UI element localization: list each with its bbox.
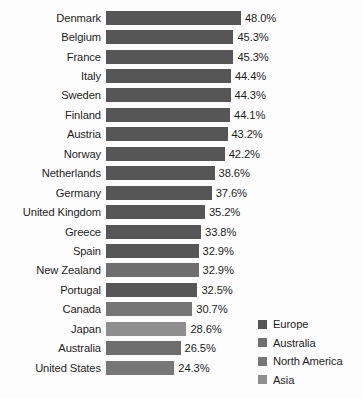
bar [106, 50, 233, 64]
bar-track: 38.6% [106, 164, 363, 183]
bar [106, 166, 215, 180]
category-label: Finland [0, 109, 106, 121]
bar-value-label: 48.0% [245, 12, 276, 24]
bar-track: 42.2% [106, 144, 363, 163]
bar-track: 30.7% [106, 300, 363, 319]
category-label: Portugal [0, 284, 106, 296]
legend-label: Asia [273, 374, 294, 386]
bar-row: Germany37.6% [0, 183, 363, 202]
bar-value-label: 33.8% [205, 226, 236, 238]
bar [106, 69, 231, 83]
bar [106, 341, 181, 355]
bar-row: Norway42.2% [0, 144, 363, 163]
category-label: Italy [0, 70, 106, 82]
bar-row: France45.3% [0, 47, 363, 66]
category-label: Japan [0, 323, 106, 335]
category-label: New Zealand [0, 264, 106, 276]
bar-track: 48.0% [106, 8, 363, 27]
bar [106, 263, 199, 277]
bar-value-label: 30.7% [196, 303, 227, 315]
bar [106, 244, 199, 258]
bar [106, 205, 205, 219]
bar-track: 45.3% [106, 47, 363, 66]
bar-track: 32.9% [106, 261, 363, 280]
bar-value-label: 24.3% [178, 362, 209, 374]
bar-row: Italy44.4% [0, 66, 363, 85]
bar [106, 127, 228, 141]
bar-value-label: 38.6% [219, 167, 250, 179]
category-label: United States [0, 362, 106, 374]
category-label: Australia [0, 342, 106, 354]
bar [106, 11, 241, 25]
bar-row: Portugal32.5% [0, 280, 363, 299]
bar-value-label: 44.3% [235, 89, 266, 101]
bar-value-label: 32.9% [203, 245, 234, 257]
bar [106, 322, 186, 336]
bar-value-label: 45.3% [237, 31, 268, 43]
bar-track: 43.2% [106, 125, 363, 144]
bar [106, 283, 197, 297]
bar-row: Austria43.2% [0, 125, 363, 144]
bar-value-label: 44.1% [234, 109, 265, 121]
bar-track: 33.8% [106, 222, 363, 241]
bar [106, 147, 225, 161]
bar-row: Sweden44.3% [0, 86, 363, 105]
bar-row: Finland44.1% [0, 105, 363, 124]
category-label: Norway [0, 148, 106, 160]
bar-track: 37.6% [106, 183, 363, 202]
legend-label: North America [273, 355, 343, 367]
legend-swatch-icon [258, 357, 267, 366]
bar-row: New Zealand32.9% [0, 261, 363, 280]
category-label: Netherlands [0, 167, 106, 179]
bar-value-label: 37.6% [216, 187, 247, 199]
bar-row: Canada30.7% [0, 300, 363, 319]
bar-value-label: 35.2% [209, 206, 240, 218]
bar-track: 35.2% [106, 202, 363, 221]
legend-swatch-icon [258, 320, 267, 329]
bar-value-label: 28.6% [190, 323, 221, 335]
legend-label: Europe [273, 318, 308, 330]
bar-chart: Denmark48.0%Belgium45.3%France45.3%Italy… [0, 0, 363, 399]
bar [106, 30, 233, 44]
bar-track: 32.5% [106, 280, 363, 299]
legend-swatch-icon [258, 375, 267, 384]
bar-track: 44.1% [106, 105, 363, 124]
category-label: Greece [0, 226, 106, 238]
bar-value-label: 32.5% [201, 284, 232, 296]
category-label: Canada [0, 303, 106, 315]
legend-swatch-icon [258, 338, 267, 347]
bar [106, 108, 230, 122]
bar-value-label: 26.5% [185, 342, 216, 354]
bar-track: 45.3% [106, 27, 363, 46]
category-label: Germany [0, 187, 106, 199]
category-label: Belgium [0, 31, 106, 43]
bar-value-label: 44.4% [235, 70, 266, 82]
bar-track: 32.9% [106, 241, 363, 260]
category-label: France [0, 51, 106, 63]
bar-row: Belgium45.3% [0, 27, 363, 46]
legend-item: North America [258, 355, 343, 367]
legend-item: Asia [258, 374, 343, 386]
legend-item: Europe [258, 318, 343, 330]
bar-row: Denmark48.0% [0, 8, 363, 27]
bar-row: Greece33.8% [0, 222, 363, 241]
category-label: Denmark [0, 12, 106, 24]
bar-row: Netherlands38.6% [0, 164, 363, 183]
category-label: United Kingdom [0, 206, 106, 218]
bar-row: United Kingdom35.2% [0, 202, 363, 221]
legend-label: Australia [273, 337, 316, 349]
bar-value-label: 32.9% [203, 264, 234, 276]
bar [106, 186, 212, 200]
bar-value-label: 43.2% [232, 128, 263, 140]
bar-value-label: 45.3% [237, 51, 268, 63]
bar [106, 302, 192, 316]
category-label: Austria [0, 128, 106, 140]
category-label: Sweden [0, 89, 106, 101]
chart-legend: EuropeAustraliaNorth AmericaAsia [258, 318, 343, 386]
bar [106, 225, 201, 239]
bar-track: 44.4% [106, 66, 363, 85]
legend-item: Australia [258, 337, 343, 349]
category-label: Spain [0, 245, 106, 257]
bar-track: 44.3% [106, 86, 363, 105]
bar [106, 88, 231, 102]
